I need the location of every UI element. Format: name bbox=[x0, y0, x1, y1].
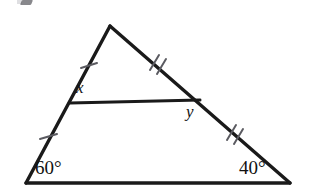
label-x: x bbox=[76, 79, 84, 96]
midsegment-line bbox=[70, 100, 200, 103]
label-y: y bbox=[186, 103, 194, 120]
scan-artifact-mark bbox=[20, 0, 33, 5]
angle-label-left: 60° bbox=[35, 158, 62, 177]
geometry-figure: x y 60° 40° bbox=[0, 0, 310, 191]
angle-label-right: 40° bbox=[239, 158, 266, 177]
